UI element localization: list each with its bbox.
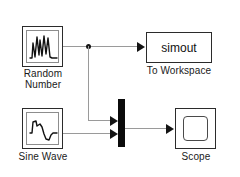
block-label-sine-wave: Sine Wave: [0, 151, 86, 162]
block-scope[interactable]: [175, 108, 216, 149]
wire-random-to-workspace: [63, 46, 141, 48]
arrow-into-to-workspace: [137, 42, 145, 52]
wire-mux-to-scope: [125, 128, 171, 130]
to-workspace-variable-name: simout: [147, 33, 211, 62]
wire-sine-to-mux: [63, 133, 116, 135]
sine-wave-curve: [27, 113, 60, 146]
arrow-into-mux-input-1: [110, 116, 118, 126]
scope-screen-icon: [183, 116, 208, 141]
random-signal-plot-icon: [26, 30, 59, 63]
block-label-to-workspace: To Workspace: [129, 65, 229, 76]
block-mux[interactable]: [118, 99, 125, 147]
block-sine-wave[interactable]: [22, 108, 63, 149]
sine-wave-plot-icon: [26, 112, 59, 145]
block-to-workspace[interactable]: simout: [146, 32, 212, 63]
block-label-random-number: Random Number: [0, 68, 86, 90]
arrow-into-mux-input-2: [110, 129, 118, 139]
random-signal-curve: [27, 31, 60, 64]
block-random-number[interactable]: [22, 26, 63, 67]
simulink-canvas: Random Number Sine Wave simout To Worksp…: [0, 0, 240, 177]
arrow-into-scope: [166, 124, 174, 134]
block-label-scope: Scope: [155, 151, 237, 162]
wire-random-branch-vertical: [88, 46, 90, 120]
